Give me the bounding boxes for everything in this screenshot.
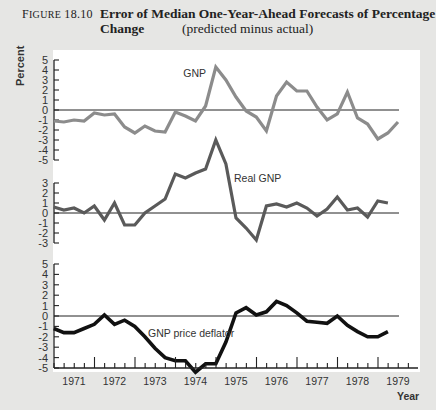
series-line <box>54 140 388 240</box>
x-tick-label: 1978 <box>346 375 370 387</box>
x-tick-label: 1979 <box>386 375 410 387</box>
y-tick-label: -3 <box>38 237 48 249</box>
x-tick-label: 1975 <box>224 375 248 387</box>
x-tick-label: 1971 <box>62 375 86 387</box>
x-tick-label: 1976 <box>265 375 289 387</box>
chart-real-gnp: 3210-1-2-3Real GNP <box>38 140 399 249</box>
x-tick-label: 1972 <box>103 375 127 387</box>
series-label: GNP <box>183 67 206 79</box>
x-axis-label: Year <box>397 390 419 402</box>
series-label: GNP price deflator <box>148 327 235 339</box>
series-line <box>54 67 398 139</box>
x-tick-label: 1974 <box>184 375 208 387</box>
chart-gnp-price-deflator: 543210-1-2-3-4-5GNP price deflator197119… <box>38 258 418 387</box>
y-tick-label: -5 <box>38 362 48 374</box>
x-tick-label: 1973 <box>143 375 167 387</box>
x-tick-label: 1977 <box>305 375 329 387</box>
y-tick-label: -5 <box>38 154 48 166</box>
line-chart-stack: 543210-1-2-3-4-5GNP3210-1-2-3Real GNP543… <box>0 0 436 410</box>
series-label: Real GNP <box>234 172 281 184</box>
